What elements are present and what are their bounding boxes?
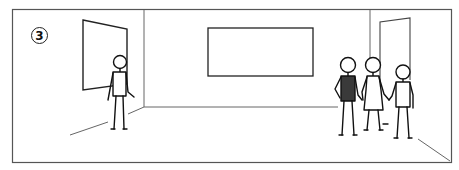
room-illustration: 3 bbox=[0, 0, 459, 170]
screen-icon bbox=[208, 28, 313, 76]
person-dark-shirt-icon bbox=[335, 58, 362, 136]
room-drawing bbox=[0, 0, 459, 170]
step-number-badge: 3 bbox=[31, 27, 48, 44]
person-right-icon bbox=[389, 65, 413, 138]
person-dress-icon bbox=[362, 58, 389, 131]
